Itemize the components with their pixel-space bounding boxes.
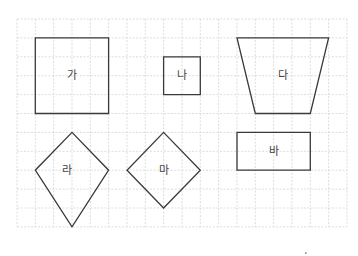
label-na: 나 [177, 69, 187, 82]
shape-grid-diagram: 가 나 다 라 마 바 [0, 0, 358, 256]
dotted-grid [17, 19, 347, 227]
label-ma: 마 [159, 164, 169, 177]
label-ba: 바 [269, 145, 279, 158]
label-ga: 가 [67, 69, 77, 82]
label-ra: 라 [62, 164, 72, 177]
label-da: 다 [278, 69, 288, 82]
stray-mark [305, 252, 307, 254]
